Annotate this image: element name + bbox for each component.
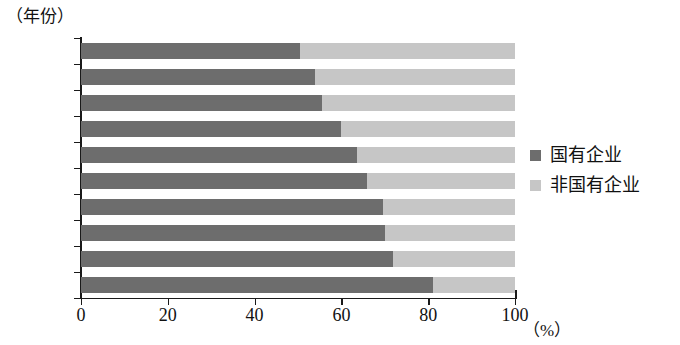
y-axis-tick — [74, 90, 81, 91]
y-axis-tick — [74, 298, 81, 299]
legend-item[interactable]: 非国有企业 — [530, 170, 678, 200]
x-axis-unit-label: （%） — [523, 316, 571, 341]
legend-label: 非国有企业 — [550, 176, 640, 194]
y-axis-tick — [74, 246, 81, 247]
x-axis-tick-label: 80 — [419, 306, 437, 324]
y-axis-tick — [74, 168, 81, 169]
x-axis-tick-label: 60 — [332, 306, 350, 324]
x-axis-tick-label: 20 — [159, 306, 177, 324]
bar-segment — [315, 69, 515, 85]
x-axis-tick-label: 40 — [246, 306, 264, 324]
x-axis-tick — [81, 298, 82, 305]
bar-segment — [300, 43, 515, 59]
plot-area: 2015201420132012201120102009200820072006… — [81, 38, 515, 298]
y-axis-tick — [74, 194, 81, 195]
y-axis-tick — [74, 272, 81, 273]
y-axis-unit-label: （年份） — [6, 2, 74, 27]
bar-segment — [433, 277, 515, 293]
x-axis-tick-label: 0 — [77, 306, 86, 324]
x-axis-tick — [255, 298, 256, 305]
x-axis-tick — [168, 298, 169, 305]
bar-segment — [81, 277, 433, 293]
y-axis-tick — [74, 38, 81, 39]
bar-segment — [81, 199, 383, 215]
legend-label: 国有企业 — [550, 146, 622, 164]
bar-segment — [81, 95, 322, 111]
bar-segment — [81, 147, 357, 163]
bar-segment — [341, 121, 515, 137]
x-axis-tick — [515, 298, 516, 305]
bar-segment — [357, 147, 515, 163]
legend-swatch-icon — [530, 180, 541, 191]
legend-item[interactable]: 国有企业 — [530, 140, 678, 170]
bar-segment — [385, 225, 515, 241]
legend-swatch-icon — [530, 150, 541, 161]
bar-segment — [81, 121, 341, 137]
y-axis-tick — [74, 142, 81, 143]
chart-legend: 国有企业非国有企业 — [530, 140, 678, 200]
bar-segment — [81, 173, 367, 189]
y-axis-tick — [74, 220, 81, 221]
bar-segment — [81, 43, 300, 59]
bar-segment — [367, 173, 515, 189]
bar-segment — [383, 199, 515, 215]
bar-segment — [81, 69, 315, 85]
y-axis-tick — [74, 116, 81, 117]
x-axis-tick — [341, 298, 342, 305]
x-axis-tick-label: 100 — [502, 306, 529, 324]
bar-segment — [322, 95, 515, 111]
x-axis-tick — [428, 298, 429, 305]
bar-segment — [81, 251, 393, 267]
bar-segment — [81, 225, 385, 241]
stacked-bar-chart: （年份） （%） 2015201420132012201120102009200… — [0, 0, 680, 345]
y-axis-tick — [74, 64, 81, 65]
bar-segment — [393, 251, 515, 267]
